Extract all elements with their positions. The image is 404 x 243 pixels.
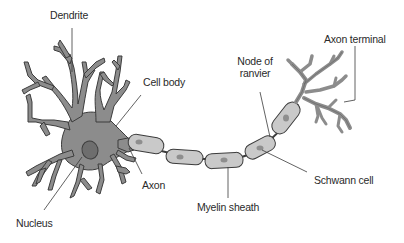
label-node-of-ranvier-line2: ranvier <box>230 67 280 79</box>
axon-terminal-leader-tick <box>344 100 355 102</box>
label-axon: Axon <box>142 179 165 191</box>
label-nucleus: Nucleus <box>16 217 53 229</box>
neuron-diagram: Dendrite Cell body Node of ranvier Axon … <box>0 0 404 243</box>
label-node-of-ranvier: Node of ranvier <box>230 55 280 79</box>
label-node-of-ranvier-line1: Node of <box>230 55 280 67</box>
label-dendrite: Dendrite <box>50 9 88 21</box>
schwann-cell-leader <box>262 150 307 172</box>
dendrites-and-cell-body <box>22 40 136 198</box>
label-schwann-cell: Schwann cell <box>314 174 373 186</box>
node-of-ranvier-leader <box>260 92 270 137</box>
axon-terminal-branches <box>288 52 350 132</box>
cell-body-leader <box>116 95 141 126</box>
label-axon-terminal: Axon terminal <box>324 33 386 45</box>
label-cell-body: Cell body <box>143 76 185 88</box>
label-myelin-sheath: Myelin sheath <box>197 201 259 213</box>
